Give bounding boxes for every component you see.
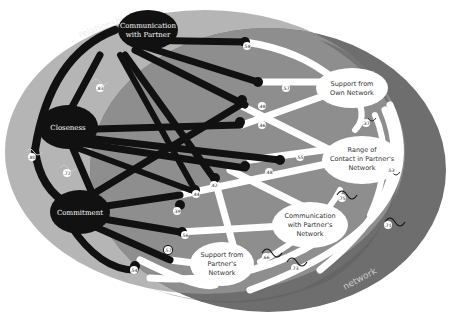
node-label-line: Support from [331, 80, 374, 88]
svg-text:.58: .58 [243, 44, 250, 49]
svg-text:.80: .80 [28, 155, 35, 160]
node-label-line: Range of [348, 146, 378, 154]
svg-text:.39: .39 [173, 209, 180, 214]
svg-text:.46: .46 [258, 123, 265, 128]
badge: .42 [210, 181, 218, 189]
node-communication-with-partners-network[interactable]: Communication with Partner's Network [272, 202, 348, 248]
badge: .57 [282, 84, 290, 92]
svg-text:.48: .48 [258, 104, 265, 109]
node-label-line: Partner's [208, 260, 237, 268]
badge: .54 [130, 266, 138, 274]
correlation-diagram: relationship network [0, 0, 451, 318]
badge: .39 [173, 207, 181, 215]
svg-text:.44: .44 [192, 192, 199, 197]
node-label-line: Network [208, 269, 235, 277]
node-label-line: Contact in Partner's [330, 155, 395, 163]
node-label-line: Closeness [50, 124, 86, 132]
node-support-from-own-network[interactable]: Support from Own Network [316, 68, 388, 108]
node-closeness[interactable]: Closeness [38, 105, 98, 149]
svg-text:.73: .73 [291, 266, 298, 271]
svg-text:.72: .72 [63, 171, 70, 176]
node-label-line: Support from [201, 251, 244, 259]
node-label-line: Network [296, 230, 323, 238]
node-label-line: Own Network [330, 89, 374, 97]
svg-text:.53: .53 [387, 168, 394, 173]
node-range-of-contact[interactable]: Range of Contact in Partner's Network [322, 136, 402, 184]
svg-text:.56: .56 [181, 233, 188, 238]
node-label-line: Commitment [57, 209, 103, 217]
node-label-line: Communication [120, 22, 176, 30]
svg-text:.83: .83 [96, 86, 103, 91]
node-label-line: with Partner [126, 31, 171, 39]
badge: .48 [258, 102, 266, 110]
node-label-line: Communication [284, 212, 335, 220]
svg-text:.54: .54 [130, 268, 137, 273]
svg-text:.57: .57 [164, 248, 171, 253]
svg-text:.57: .57 [282, 86, 289, 91]
svg-text:.75: .75 [338, 196, 345, 201]
badge: .56 [181, 231, 189, 239]
badge: .57 [164, 246, 172, 254]
node-communication-with-partner[interactable]: Communication with Partner [118, 10, 178, 50]
svg-text:.55: .55 [296, 155, 303, 160]
node-support-from-partners-network[interactable]: Support from Partner's Network [190, 242, 254, 286]
svg-text:.37: .37 [362, 121, 369, 126]
svg-text:.42: .42 [210, 183, 217, 188]
svg-text:.48: .48 [265, 170, 272, 175]
badge: .44 [192, 190, 200, 198]
badge: .58 [243, 42, 251, 50]
node-label-line: with Partner's [288, 221, 333, 229]
svg-text:.66: .66 [262, 255, 269, 260]
badge: .55 [296, 153, 304, 161]
node-label-line: Network [348, 164, 375, 172]
svg-text:.71: .71 [384, 223, 391, 228]
badge: .48 [265, 168, 273, 176]
badge: .46 [258, 121, 266, 129]
node-commitment[interactable]: Commitment [50, 190, 110, 234]
